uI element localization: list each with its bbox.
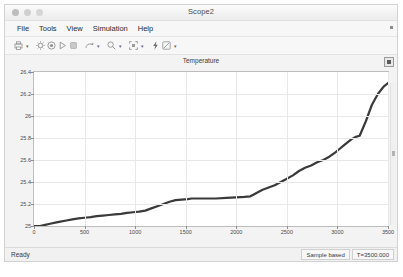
gridline-vertical [186,72,187,226]
menu-file[interactable]: File [12,24,34,33]
chevron-down-icon[interactable]: ▾ [172,40,178,51]
plot-title: Temperature [5,57,397,64]
toolbar: ▾ [5,37,397,55]
x-tick-label: 500 [80,229,89,235]
menu-tools[interactable]: Tools [34,24,62,33]
x-tick-label: 0 [32,229,35,235]
toolbar-run-button[interactable] [57,39,68,52]
gridline-horizontal [34,160,388,161]
gridline-horizontal [34,204,388,205]
vertical-scrollbar[interactable] [390,83,396,225]
y-tickmark [31,94,34,95]
plot-title-band: Temperature [5,55,397,67]
y-tick-label: 26 [25,113,31,119]
gridline-horizontal [34,138,388,139]
gridline-vertical [388,72,389,226]
gridline-vertical [337,72,338,226]
expand-panel-icon[interactable] [384,57,394,67]
y-tickmark [31,138,34,139]
y-tickmark [31,226,34,227]
toolbar-config-button[interactable] [35,39,46,52]
toolbar-zoom-button[interactable]: ▾ [106,39,123,52]
gridline-vertical [236,72,237,226]
y-tick-label: 25.8 [20,135,31,141]
toolbar-step-button[interactable]: ▾ [84,39,101,52]
menu-simulation[interactable]: Simulation [88,24,133,33]
x-tick-label: 3500 [382,229,394,235]
status-sample-mode: Sample based [301,249,349,260]
gridline-horizontal [34,116,388,117]
chevron-down-icon[interactable]: ▾ [117,40,123,51]
x-tick-label: 2500 [281,229,293,235]
lightning-icon [150,40,161,51]
x-tick-label: 1500 [180,229,192,235]
scope-window: Scope2 File Tools View Simulation Help ▾ [4,4,398,262]
gridline-vertical [135,72,136,226]
x-tick-label: 1000 [129,229,141,235]
zoom-icon [106,40,117,51]
toolbar-print-button[interactable]: ▾ [13,39,30,52]
chevron-down-icon[interactable]: ▾ [24,40,30,51]
record-icon [46,40,57,51]
toolbar-stop-button[interactable] [68,39,79,52]
run-icon [57,40,68,51]
cursor-measurements-icon [161,40,172,51]
title-bar: Scope2 [5,5,397,21]
menu-bar: File Tools View Simulation Help [5,21,397,37]
y-tick-label: 26.4 [20,69,31,75]
print-icon [13,40,24,51]
y-tickmark [31,182,34,183]
toolbar-record-button[interactable] [46,39,57,52]
stop-icon [68,40,79,51]
menu-overflow-icon[interactable] [388,26,393,31]
y-tickmark [31,204,34,205]
x-tick-label: 2000 [230,229,242,235]
y-tick-label: 26.2 [20,91,31,97]
gridline-vertical [85,72,86,226]
y-tick-label: 25.4 [20,179,31,185]
chevron-down-icon[interactable]: ▾ [95,40,101,51]
status-state: Ready [5,251,30,258]
gridline-horizontal [34,182,388,183]
y-tickmark [31,160,34,161]
configuration-properties-icon [35,40,46,51]
gridline-vertical [287,72,288,226]
window-title: Scope2 [5,7,397,16]
chart-area: 05001000150020002500300035002525.225.425… [5,67,397,247]
plot-axes[interactable]: 05001000150020002500300035002525.225.425… [33,71,389,227]
gridline-horizontal [34,94,388,95]
toolbar-autoscale-button[interactable]: ▾ [128,39,145,52]
y-tick-label: 25.6 [20,157,31,163]
x-tick-label: 3000 [331,229,343,235]
status-time: T=3500.000 [352,249,394,260]
toolbar-cursor-measurements-button[interactable]: ▾ [161,39,178,52]
status-bar: Ready Sample based T=3500.000 [5,247,397,261]
autoscale-icon [128,40,139,51]
step-forward-icon [84,40,95,51]
y-tickmark [31,72,34,73]
temperature-series [34,72,388,226]
menu-help[interactable]: Help [133,24,158,33]
chevron-down-icon[interactable]: ▾ [139,40,145,51]
scrollbar-thumb[interactable] [392,151,395,156]
menu-view[interactable]: View [62,24,88,33]
y-tick-label: 25.2 [20,201,31,207]
toolbar-lightning-button[interactable] [150,39,161,52]
y-tick-label: 25 [25,223,31,229]
y-tickmark [31,116,34,117]
